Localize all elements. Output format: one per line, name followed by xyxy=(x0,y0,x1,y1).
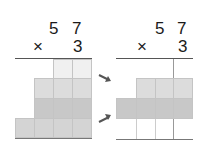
left-digit-7: 7 xyxy=(72,20,81,37)
right-column-guide xyxy=(136,118,137,139)
right-cell xyxy=(173,78,193,99)
right-cell xyxy=(116,98,137,119)
left-cell xyxy=(34,78,54,99)
right-top-line xyxy=(116,58,193,59)
left-cell xyxy=(15,118,35,138)
right-column-guide xyxy=(155,118,156,139)
right-cell xyxy=(155,78,174,99)
left-cell xyxy=(72,118,92,138)
arrow-right-up-icon xyxy=(98,112,114,124)
left-cell xyxy=(53,78,73,99)
right-cell xyxy=(136,78,156,99)
left-digit-5: 5 xyxy=(49,20,58,37)
right-digit-7: 7 xyxy=(177,20,186,37)
arrow-right-down-icon xyxy=(98,72,114,84)
left-cell xyxy=(53,118,73,138)
right-digit-5: 5 xyxy=(155,20,164,37)
right-cell xyxy=(155,98,174,119)
right-times-sign: × xyxy=(137,38,147,55)
right-cell xyxy=(173,98,193,119)
left-digit-3: 3 xyxy=(73,38,82,55)
left-cell xyxy=(72,98,92,119)
right-cell xyxy=(136,98,156,119)
right-digit-3: 3 xyxy=(178,38,187,55)
left-cell xyxy=(34,118,54,138)
left-cell xyxy=(72,78,92,99)
left-cell xyxy=(34,98,54,119)
left-cell xyxy=(53,98,73,119)
right-bottom-line xyxy=(116,139,193,140)
left-cell xyxy=(72,59,92,79)
left-times-sign: × xyxy=(33,38,43,55)
left-cell xyxy=(53,59,73,79)
left-bottom-line xyxy=(15,138,92,139)
